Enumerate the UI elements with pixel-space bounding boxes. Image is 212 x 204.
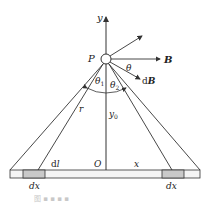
upper-vector [110, 36, 142, 56]
biot-savart-diagram: y P B θ dB θ1 θ2 r y0 dl O x dx dx 图 ▪ ▪… [0, 0, 212, 204]
point-p-circle [101, 54, 111, 64]
dx-segment-left [23, 170, 45, 178]
point-p-label: P [87, 53, 95, 64]
inner-line-left [38, 64, 103, 170]
db-label: dB [142, 76, 156, 86]
dx-left-label: dx [29, 181, 40, 191]
outer-line-left [10, 63, 104, 170]
y-axis-label: y [96, 12, 103, 23]
r-label: r [79, 104, 84, 114]
dl-label: dl [51, 159, 60, 169]
y0-label: y0 [108, 109, 118, 120]
theta-label: θ [126, 63, 132, 73]
theta2-label: θ2 [110, 80, 119, 91]
x-label: x [134, 159, 139, 169]
origin-label: O [94, 159, 102, 169]
theta1-arc [87, 88, 106, 93]
inner-line-right [109, 64, 172, 170]
dx-segment-right [162, 170, 184, 178]
b-label: B [163, 54, 172, 65]
dx-right-label: dx [166, 181, 177, 191]
theta1-label: θ1 [95, 76, 104, 87]
figure-caption: 图 ▪ ▪ ▪ ▪ [34, 195, 69, 203]
